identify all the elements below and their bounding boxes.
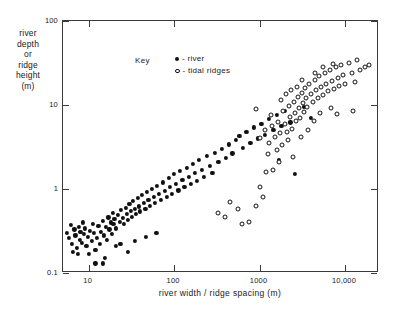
data-point-tidal-ridge <box>335 75 340 80</box>
x-axis-tick <box>260 265 261 271</box>
data-point-river <box>98 242 102 246</box>
data-point-river <box>119 208 123 212</box>
data-point-river <box>154 231 158 235</box>
x-axis-tick <box>89 265 90 271</box>
data-point-river <box>259 122 263 126</box>
data-point-river <box>172 172 176 176</box>
data-point-tidal-ridge <box>305 104 310 109</box>
data-point-river <box>67 236 71 240</box>
data-point-river <box>223 156 227 160</box>
data-point-river <box>70 242 74 246</box>
data-point-river <box>109 232 113 236</box>
data-point-tidal-ridge <box>295 94 300 99</box>
data-point-river <box>200 168 204 172</box>
data-point-tidal-ridge <box>304 96 309 101</box>
data-point-river <box>105 237 109 241</box>
data-point-river <box>161 180 165 184</box>
x-axis-tick-top <box>89 21 90 27</box>
data-point-river <box>103 256 107 260</box>
data-point-river <box>146 198 150 202</box>
data-point-tidal-ridge <box>321 64 326 69</box>
data-point-tidal-ridge <box>307 81 312 86</box>
legend-entry-tidal-ridges: - tidal ridges <box>175 66 230 75</box>
data-point-river <box>187 175 191 179</box>
data-point-river <box>195 179 199 183</box>
data-point-river <box>237 134 241 138</box>
data-point-tidal-ridge <box>318 84 323 89</box>
data-point-tidal-ridge <box>324 81 329 86</box>
data-point-tidal-ridge <box>339 62 344 67</box>
data-point-river <box>165 195 169 199</box>
data-point-river <box>263 133 267 137</box>
data-point-tidal-ridge <box>325 89 330 94</box>
data-point-river <box>84 244 88 248</box>
data-point-tidal-ridge <box>329 78 334 83</box>
data-point-river <box>144 235 148 239</box>
data-point-tidal-ridge <box>309 92 314 97</box>
data-point-river <box>65 231 69 235</box>
data-point-tidal-ridge <box>247 220 252 225</box>
y-axis-tick <box>63 21 69 22</box>
scatter-chart-figure: river depth or ridge height (m) river wi… <box>0 0 404 313</box>
x-axis-tick-top <box>345 21 346 27</box>
data-point-river <box>152 195 156 199</box>
data-point-river <box>178 169 182 173</box>
data-point-tidal-ridge <box>351 108 356 113</box>
data-point-river <box>74 246 78 250</box>
data-point-river <box>133 239 137 243</box>
data-point-river <box>202 175 206 179</box>
data-point-river <box>95 236 99 240</box>
y-axis-tick-label: 1 <box>34 184 58 193</box>
data-point-river <box>73 233 77 237</box>
data-point-tidal-ridge <box>318 111 323 116</box>
data-point-river <box>121 216 125 220</box>
data-point-river <box>248 141 252 145</box>
data-point-tidal-ridge <box>272 134 277 139</box>
data-point-tidal-ridge <box>331 87 336 92</box>
data-point-river <box>127 202 131 206</box>
data-point-river <box>142 201 146 205</box>
y-axis-title-line: or <box>2 49 54 60</box>
data-point-river <box>148 204 152 208</box>
data-point-tidal-ridge <box>298 134 303 139</box>
data-point-tidal-ridge <box>313 71 318 76</box>
data-point-river <box>166 176 170 180</box>
data-point-river <box>288 120 292 124</box>
legend-entry-river: - river <box>175 54 205 63</box>
data-point-tidal-ridge <box>222 215 227 220</box>
data-point-tidal-ridge <box>267 141 272 146</box>
data-point-river <box>193 171 197 175</box>
data-point-tidal-ridge <box>253 204 258 209</box>
data-point-tidal-ridge <box>289 88 294 93</box>
y-axis-title: river depth or ridge height (m) <box>2 28 54 92</box>
data-point-river <box>271 128 275 132</box>
data-point-river <box>125 212 129 216</box>
data-point-tidal-ridge <box>216 210 221 215</box>
data-point-river <box>126 249 130 253</box>
data-point-river <box>140 193 144 197</box>
data-point-river <box>83 226 87 230</box>
data-point-tidal-ridge <box>257 185 262 190</box>
y-axis-tick-right <box>371 189 377 190</box>
plot-area: Key - river - tidal ridges <box>62 20 378 272</box>
data-point-tidal-ridge <box>285 138 290 143</box>
data-point-tidal-ridge <box>290 155 295 160</box>
data-point-river <box>163 189 167 193</box>
data-point-tidal-ridge <box>302 85 307 90</box>
data-point-tidal-ridge <box>278 131 283 136</box>
data-point-river <box>81 220 85 224</box>
data-point-river <box>205 154 209 158</box>
data-point-river <box>150 187 154 191</box>
data-point-tidal-ridge <box>290 126 295 131</box>
y-axis-tick <box>63 273 69 274</box>
data-point-river <box>87 252 91 256</box>
data-point-tidal-ridge <box>227 200 232 205</box>
data-point-river <box>153 201 157 205</box>
data-point-tidal-ridge <box>281 108 286 113</box>
data-point-river <box>114 226 118 230</box>
data-point-tidal-ridge <box>276 119 281 124</box>
data-point-river <box>208 163 212 167</box>
data-point-river <box>112 217 116 221</box>
data-point-tidal-ridge <box>366 62 371 67</box>
y-axis-tick-right <box>371 105 377 106</box>
